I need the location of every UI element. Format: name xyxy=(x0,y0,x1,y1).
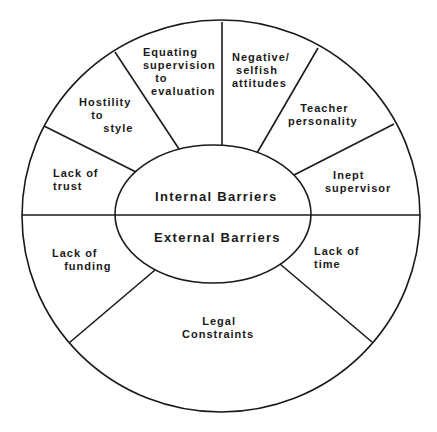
barriers-wheel-diagram xyxy=(0,0,437,432)
center-ellipse xyxy=(115,145,311,283)
spoke-funding-legal xyxy=(69,270,155,343)
segment-inept-supervisor: Inept supervisor xyxy=(325,169,391,195)
segment-hostility-to-style: Hostility to style xyxy=(79,96,133,135)
external-barriers-label: External Barriers xyxy=(154,230,281,245)
segment-equating-supervision: Equating supervision to evaluation xyxy=(143,46,216,98)
segment-legal-constraints: Legal Constraints xyxy=(182,315,254,341)
segment-lack-of-funding: Lack of funding xyxy=(52,247,111,273)
segment-negative-attitudes: Negative/ selfish attitudes xyxy=(232,51,290,90)
spoke-teacher-inept xyxy=(294,124,394,175)
segment-lack-of-time: Lack of time xyxy=(314,245,360,271)
internal-barriers-label: Internal Barriers xyxy=(155,189,278,204)
segment-lack-of-trust: Lack of trust xyxy=(53,167,99,193)
segment-teacher-personality: Teacher personality xyxy=(288,102,358,128)
spoke-legal-time xyxy=(280,264,372,342)
